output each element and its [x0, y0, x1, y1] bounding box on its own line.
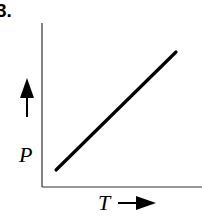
chart: P T: [0, 0, 202, 224]
x-axis-label: T: [98, 190, 112, 215]
y-axis-label: P: [18, 142, 32, 167]
right-arrow-icon: [118, 196, 156, 210]
up-arrow-icon: [20, 78, 34, 117]
data-line: [56, 52, 176, 170]
